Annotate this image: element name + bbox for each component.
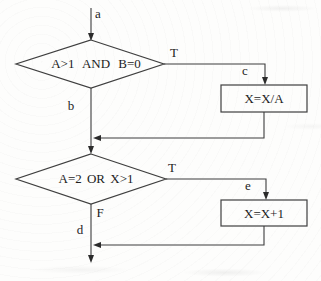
- connector-d-label: d: [77, 222, 84, 237]
- entry-label: a: [95, 6, 101, 21]
- process-2: X=X+1: [221, 200, 307, 226]
- process-1-return-edge: [93, 112, 264, 141]
- arrow-down-icon: [88, 255, 94, 263]
- connector-e-label: e: [245, 178, 251, 193]
- process-1-statement: X=X/A: [244, 91, 284, 106]
- connector-b-label: b: [68, 98, 75, 113]
- arrow-down-icon: [262, 77, 268, 85]
- process-2-return-edge: [93, 226, 264, 248]
- decision-2-false-label: F: [96, 205, 103, 220]
- connector-c-label: c: [242, 63, 248, 78]
- flowchart-canvas: a A>1 AND B=0 T c X=X/A b: [0, 0, 321, 281]
- decision-1-condition: A>1 AND B=0: [51, 56, 141, 71]
- decision-1-false-edge: b: [68, 88, 94, 154]
- process-2-statement: X=X+1: [244, 206, 284, 221]
- decision-1-true-edge: T c: [164, 45, 268, 85]
- arrow-left-icon: [93, 135, 101, 141]
- decision-2-condition: A=2 OR X>1: [59, 171, 134, 186]
- decision-2-true-line: [166, 179, 266, 192]
- exit-edge: F d: [77, 204, 104, 263]
- entry-edge: a: [88, 6, 101, 41]
- arrow-down-icon: [263, 192, 269, 200]
- arrow-left-icon: [93, 242, 101, 248]
- process-2-return-line: [100, 226, 264, 245]
- decision-1-true-label: T: [170, 45, 178, 60]
- decision-2-true-edge: T e: [166, 160, 269, 200]
- decision-2: A=2 OR X>1: [16, 154, 166, 204]
- flowchart-figure: a A>1 AND B=0 T c X=X/A b: [0, 0, 321, 281]
- decision-1: A>1 AND B=0: [16, 40, 164, 88]
- decision-2-true-label: T: [168, 160, 176, 175]
- process-1: X=X/A: [221, 85, 307, 112]
- decision-1-true-line: [164, 64, 265, 77]
- arrow-down-icon: [88, 146, 94, 154]
- process-1-return-line: [100, 112, 264, 138]
